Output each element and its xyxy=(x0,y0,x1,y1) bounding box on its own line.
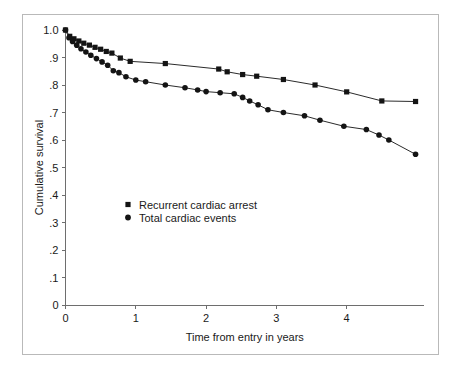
x-tick-label: 0 xyxy=(62,312,68,324)
y-tick-label: .7 xyxy=(49,107,58,119)
data-point-marker xyxy=(182,85,188,91)
x-tick-label: 2 xyxy=(203,312,209,324)
data-point-marker xyxy=(83,49,89,55)
data-point-marker xyxy=(281,110,287,116)
legend-label-0: Recurrent cardiac arrest xyxy=(139,199,257,211)
x-tick-label: 1 xyxy=(133,312,139,324)
data-point-marker xyxy=(128,59,133,64)
y-tick-label: .2 xyxy=(49,244,58,256)
y-tick-label: .8 xyxy=(49,79,58,91)
y-tick-label: .1 xyxy=(49,272,58,284)
data-point-marker xyxy=(123,74,129,80)
data-point-marker xyxy=(111,68,117,74)
series-line-0 xyxy=(66,30,416,102)
x-tick-label: 4 xyxy=(344,312,350,324)
data-point-marker xyxy=(94,56,100,62)
data-point-marker xyxy=(99,59,105,65)
legend-marker-square xyxy=(125,202,130,207)
data-point-marker xyxy=(413,99,418,104)
data-point-marker xyxy=(195,87,201,93)
data-point-marker xyxy=(281,77,286,82)
data-point-marker xyxy=(203,89,209,95)
legend-label-1: Total cardiac events xyxy=(139,212,237,224)
data-point-marker xyxy=(133,77,139,83)
data-point-marker xyxy=(254,74,259,79)
data-point-marker xyxy=(302,113,308,119)
data-point-marker xyxy=(240,95,246,101)
data-point-marker xyxy=(118,55,123,60)
x-tick-label: 3 xyxy=(273,312,279,324)
data-point-marker xyxy=(109,51,114,56)
y-axis-title: Cumulative survival xyxy=(33,120,45,215)
series-line-1 xyxy=(66,30,416,154)
data-point-marker xyxy=(116,70,122,76)
legend-marker-circle xyxy=(125,215,131,221)
data-point-marker xyxy=(240,72,245,77)
data-point-marker xyxy=(386,137,392,143)
y-tick-label: .6 xyxy=(49,134,58,146)
data-point-marker xyxy=(163,61,168,66)
survival-chart: 0.1.2.3.4.5.6.7.8.91.001234Time from ent… xyxy=(0,0,459,376)
y-tick-label: 0 xyxy=(52,299,58,311)
data-point-marker xyxy=(105,62,111,68)
data-point-marker xyxy=(255,102,261,108)
data-point-marker xyxy=(216,66,221,71)
data-point-marker xyxy=(413,152,419,158)
data-point-marker xyxy=(247,98,253,104)
y-tick-label: .4 xyxy=(49,189,58,201)
data-point-marker xyxy=(344,89,349,94)
y-tick-label: .3 xyxy=(49,217,58,229)
data-point-marker xyxy=(225,69,230,74)
data-point-marker xyxy=(78,46,84,52)
data-point-marker xyxy=(376,132,382,138)
data-point-marker xyxy=(98,47,103,52)
data-point-marker xyxy=(231,91,237,97)
data-point-marker xyxy=(104,49,109,54)
data-point-marker xyxy=(63,27,69,33)
data-point-marker xyxy=(317,117,323,123)
data-point-marker xyxy=(379,98,384,103)
y-tick-label: 1.0 xyxy=(43,24,58,36)
x-axis-title: Time from entry in years xyxy=(186,331,305,343)
data-point-marker xyxy=(341,123,347,129)
data-point-marker xyxy=(364,127,370,133)
y-tick-label: .5 xyxy=(49,162,58,174)
data-point-marker xyxy=(312,82,317,87)
figure-canvas: 0.1.2.3.4.5.6.7.8.91.001234Time from ent… xyxy=(0,0,459,376)
data-point-marker xyxy=(81,41,86,46)
y-tick-label: .9 xyxy=(49,52,58,64)
data-point-marker xyxy=(143,79,149,85)
data-point-marker xyxy=(163,82,169,88)
data-point-marker xyxy=(92,45,97,50)
data-point-marker xyxy=(265,107,271,113)
data-point-marker xyxy=(87,43,92,48)
data-point-marker xyxy=(88,53,94,59)
data-point-marker xyxy=(217,90,223,96)
